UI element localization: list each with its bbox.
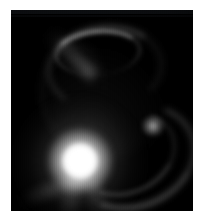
sky-frame: Grayscale astronomical image of a bright… — [11, 10, 193, 211]
image-canvas: Grayscale astronomical image of a bright… — [0, 0, 203, 222]
vignette-overlay — [11, 10, 193, 211]
